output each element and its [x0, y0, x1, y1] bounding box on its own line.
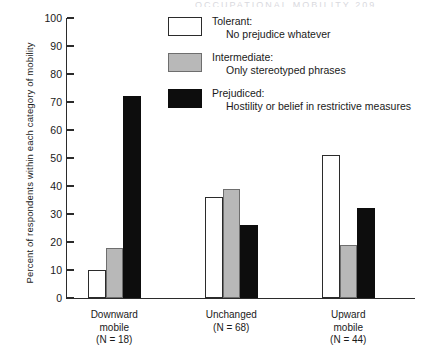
- y-axis-tick-label: 40: [32, 181, 62, 191]
- legend-item-intermediate: Intermediate:Only stereotyped phrases: [168, 51, 424, 87]
- y-axis-title: Percent of respondents within each categ…: [24, 44, 35, 284]
- legend: Tolerant:No prejudice whateverIntermedia…: [168, 15, 424, 123]
- legend-title: Prejudiced:: [212, 87, 424, 100]
- bar-prejudiced: [357, 208, 375, 298]
- y-axis-tick-label: 60: [32, 125, 62, 135]
- x-axis-line: [66, 298, 415, 299]
- bar-tolerant: [322, 155, 340, 298]
- x-axis-category-label: Upwardmobile(N = 44): [288, 309, 408, 347]
- y-axis-tick-label: 70: [32, 97, 62, 107]
- bar-tolerant: [205, 197, 223, 298]
- y-axis-tick: [67, 241, 74, 242]
- legend-subtitle: No prejudice whatever: [212, 28, 424, 41]
- category-label-line: mobile: [54, 322, 174, 335]
- legend-item-tolerant: Tolerant:No prejudice whatever: [168, 15, 424, 51]
- y-axis-tick: [67, 73, 74, 74]
- legend-subtitle: Hostility or belief in restrictive measu…: [212, 100, 424, 113]
- bar-intermediate: [223, 189, 241, 298]
- y-axis-tick: [67, 213, 74, 214]
- category-sample-size: (N = 68): [171, 322, 291, 335]
- bar-tolerant: [88, 270, 106, 298]
- legend-swatch-prejudiced: [168, 89, 202, 108]
- x-axis-category-label: Downwardmobile(N = 18): [54, 309, 174, 347]
- y-axis-tick: [67, 101, 74, 102]
- y-axis-tick-label: 100: [32, 13, 62, 23]
- y-axis-tick-label: 50: [32, 153, 62, 163]
- legend-swatch-intermediate: [168, 53, 202, 72]
- y-axis-tick: [67, 129, 74, 130]
- category-label-line: Downward: [54, 309, 174, 322]
- category-sample-size: (N = 18): [54, 334, 174, 347]
- legend-item-prejudiced: Prejudiced:Hostility or belief in restri…: [168, 87, 424, 123]
- y-axis-tick-label: 20: [32, 237, 62, 247]
- y-axis-tick: [67, 45, 74, 46]
- category-label-line: Unchanged: [171, 309, 291, 322]
- y-axis-tick: [67, 185, 74, 186]
- legend-text: Intermediate:Only stereotyped phrases: [212, 51, 424, 77]
- legend-text: Prejudiced:Hostility or belief in restri…: [212, 87, 424, 113]
- legend-text: Tolerant:No prejudice whatever: [212, 15, 424, 41]
- legend-subtitle: Only stereotyped phrases: [212, 64, 424, 77]
- bar-prejudiced: [240, 225, 258, 298]
- bar-intermediate: [340, 245, 358, 298]
- y-axis-tick: [67, 269, 74, 270]
- x-axis-category-label: Unchanged(N = 68): [171, 309, 291, 334]
- y-axis-tick-label: 10: [32, 265, 62, 275]
- legend-swatch-tolerant: [168, 17, 202, 36]
- y-axis-tick: [67, 17, 74, 18]
- y-axis-tick-label: 80: [32, 69, 62, 79]
- y-axis-tick-label: 90: [32, 41, 62, 51]
- legend-title: Intermediate:: [212, 51, 424, 64]
- category-label-line: Upward: [288, 309, 408, 322]
- y-axis-tick-label: 30: [32, 209, 62, 219]
- y-axis-tick: [67, 157, 74, 158]
- legend-title: Tolerant:: [212, 15, 424, 28]
- y-axis-tick-label: 0: [32, 293, 62, 303]
- category-sample-size: (N = 44): [288, 334, 408, 347]
- bar-prejudiced: [123, 96, 141, 298]
- y-axis-tick: [67, 297, 74, 298]
- bar-intermediate: [106, 248, 124, 298]
- category-label-line: mobile: [288, 322, 408, 335]
